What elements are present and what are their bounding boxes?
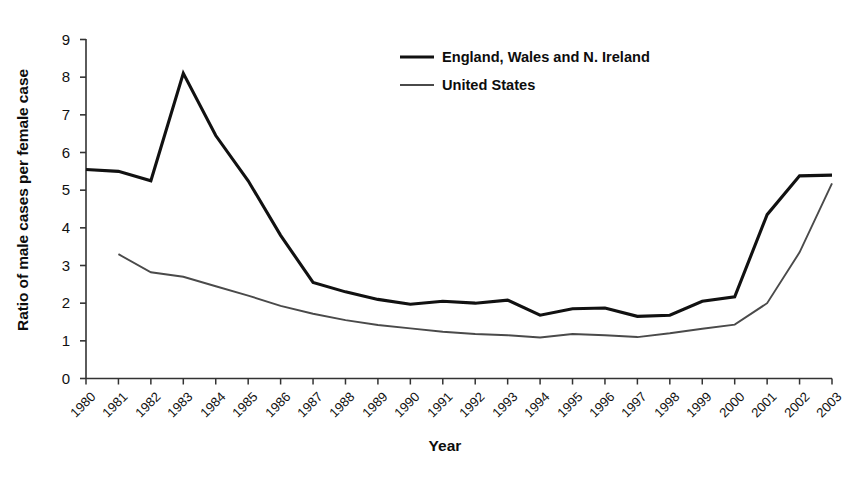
legend-label-united-states: United States [442,77,535,93]
chart-figure: Ratio of male cases per female case Year… [0,0,858,478]
series-lines [86,73,832,337]
y-tick-label: 6 [44,144,70,161]
x-axis-title: Year [380,437,510,455]
series-line-england-wales-n-ireland [86,73,832,316]
y-tick-label: 3 [44,257,70,274]
y-tick-label: 0 [44,370,70,387]
y-tick-label: 1 [44,332,70,349]
series-line-united-states [118,183,832,337]
y-tick-label: 9 [44,31,70,48]
y-tick-label: 2 [44,294,70,311]
y-tick-label: 4 [44,219,70,236]
y-tick-label: 8 [44,68,70,85]
y-tick-label: 7 [44,106,70,123]
y-tick-label: 5 [44,181,70,198]
legend-swatches [400,57,434,85]
y-axis-title: Ratio of male cases per female case [6,0,40,410]
legend-label-england: England, Wales and N. Ireland [442,49,650,65]
